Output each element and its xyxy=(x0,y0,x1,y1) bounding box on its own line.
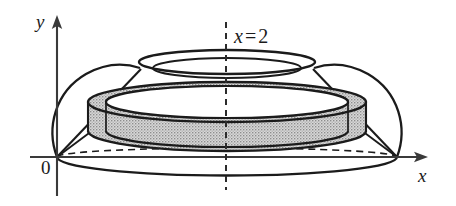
top-disk-group xyxy=(139,50,315,78)
x-equals-2-label: x=2 xyxy=(234,26,268,46)
figure-canvas: y x 0 x=2 xyxy=(0,0,456,206)
x-equals-2-variable: x xyxy=(234,25,243,47)
x-axis-label: x xyxy=(418,166,426,185)
x-equals-2-operator: = xyxy=(243,25,258,47)
x-equals-2-value: 2 xyxy=(258,25,268,47)
solid-of-revolution-diagram xyxy=(0,0,456,206)
origin-label: 0 xyxy=(41,158,51,177)
y-axis-label: y xyxy=(36,12,44,31)
